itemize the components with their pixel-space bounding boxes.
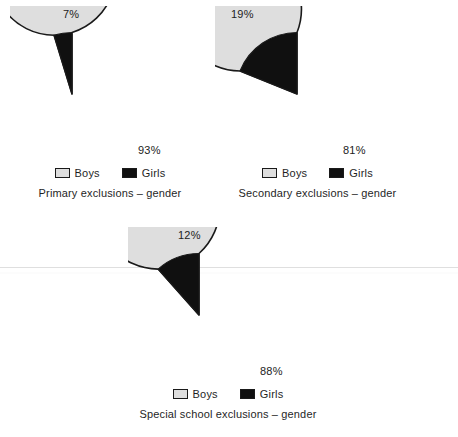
legend-label-boys: Boys bbox=[75, 167, 100, 179]
legend-swatch-boys-icon bbox=[55, 168, 70, 178]
legend-item-girls: Girls bbox=[329, 167, 373, 179]
chart-caption-secondary: Secondary exclusions – gender bbox=[195, 187, 440, 200]
legend-label-girls: Girls bbox=[349, 167, 373, 179]
legend-swatch-boys-icon bbox=[173, 389, 188, 399]
pie-svg-secondary bbox=[215, 6, 440, 158]
pie-chart-primary-exclusions: 7% 93% Boys Girls Primary exclusions – g… bbox=[10, 6, 210, 200]
pie-slice-girls-primary bbox=[54, 33, 72, 95]
pie-label-boys-secondary: 81% bbox=[343, 144, 366, 156]
legend-label-boys: Boys bbox=[193, 388, 218, 400]
pie-svg-primary bbox=[10, 6, 210, 158]
pie-label-girls-secondary: 19% bbox=[231, 8, 254, 20]
legend-secondary: Boys Girls bbox=[195, 167, 440, 179]
legend-primary: Boys Girls bbox=[10, 167, 210, 179]
legend-item-boys: Boys bbox=[262, 167, 307, 179]
legend-item-girls: Girls bbox=[240, 388, 284, 400]
legend-item-girls: Girls bbox=[122, 167, 166, 179]
legend-swatch-girls-icon bbox=[240, 389, 255, 399]
legend-swatch-girls-icon bbox=[122, 168, 137, 178]
legend-item-boys: Boys bbox=[173, 388, 218, 400]
pie-chart-secondary-exclusions: 19% 81% Boys Girls Secondary exclusions … bbox=[215, 6, 440, 200]
legend-special: Boys Girls bbox=[128, 388, 328, 400]
legend-swatch-girls-icon bbox=[329, 168, 344, 178]
legend-item-boys: Boys bbox=[55, 167, 100, 179]
pie-chart-special-school-exclusions: 12% 88% Boys Girls Special school exclus… bbox=[128, 227, 328, 421]
pie-label-girls-primary: 7% bbox=[63, 8, 79, 20]
pie-label-boys-special: 88% bbox=[260, 365, 283, 377]
legend-label-boys: Boys bbox=[282, 167, 307, 179]
legend-label-girls: Girls bbox=[142, 167, 166, 179]
chart-caption-special: Special school exclusions – gender bbox=[128, 408, 328, 421]
pie-svg-special bbox=[128, 227, 328, 379]
pie-label-girls-special: 12% bbox=[178, 229, 201, 241]
chart-caption-primary: Primary exclusions – gender bbox=[10, 187, 210, 200]
legend-swatch-boys-icon bbox=[262, 168, 277, 178]
legend-label-girls: Girls bbox=[260, 388, 284, 400]
pie-label-boys-primary: 93% bbox=[138, 144, 161, 156]
